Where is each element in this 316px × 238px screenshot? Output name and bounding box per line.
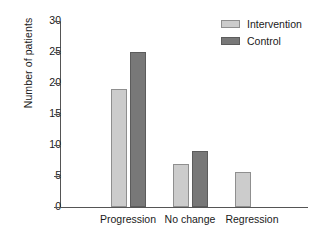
y-axis-tick-mark <box>54 83 61 84</box>
y-axis-tick-mark <box>54 176 61 177</box>
bar <box>192 151 208 207</box>
y-axis-tick-mark <box>54 52 61 53</box>
legend-swatch <box>221 37 240 45</box>
bar <box>111 89 127 207</box>
bar-chart: Number of patients 051015202530 Progress… <box>0 0 316 238</box>
y-axis-tick-mark <box>54 21 61 22</box>
y-axis-tick-mark <box>54 145 61 146</box>
x-axis-line <box>60 207 308 208</box>
legend-label: Intervention <box>247 19 302 30</box>
legend-item: Intervention <box>221 17 302 31</box>
legend-label: Control <box>247 36 281 47</box>
bar <box>130 52 146 207</box>
bar <box>235 172 251 207</box>
chart-legend: InterventionControl <box>221 17 302 51</box>
legend-swatch <box>221 20 240 28</box>
legend-item: Control <box>221 34 302 48</box>
y-axis-tick-mark <box>54 114 61 115</box>
bar <box>173 164 189 207</box>
x-axis-tick-label: Regression <box>207 213 297 225</box>
